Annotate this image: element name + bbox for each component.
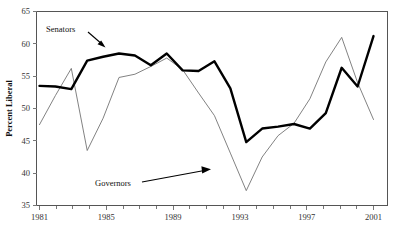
annotation-arrowhead-governors [201, 166, 211, 173]
x-tick-label-1993: 1993 [231, 212, 248, 222]
x-tick-label-1981: 1981 [31, 212, 48, 222]
annotation-governors: Governors [95, 166, 211, 188]
y-tick-label-50: 50 [22, 103, 31, 113]
y-tick-label-55: 55 [22, 71, 31, 81]
y-axis-ticks: 65 60 55 50 45 40 35 [22, 6, 37, 210]
x-tick-label-1997: 1997 [298, 212, 315, 222]
line-chart-canvas: 65 60 55 50 45 40 35 Percent Liberal [0, 0, 409, 234]
annotation-label-senators: Senators [46, 24, 75, 34]
x-tick-label-1985: 1985 [98, 212, 115, 222]
y-tick-label-35: 35 [22, 200, 31, 210]
annotation-arrow-governors [142, 170, 207, 182]
chart-figure: 65 60 55 50 45 40 35 Percent Liberal [0, 0, 409, 234]
y-tick-label-65: 65 [22, 6, 31, 16]
y-axis-title: Percent Liberal [4, 80, 14, 137]
series-line-senators [40, 36, 374, 142]
plot-frame [37, 12, 388, 206]
annotation-label-governors: Governors [95, 178, 131, 188]
x-tick-label-2001: 2001 [365, 212, 382, 222]
y-tick-label-40: 40 [22, 168, 31, 178]
x-axis-ticks [40, 206, 374, 211]
y-tick-label-60: 60 [22, 39, 31, 49]
y-tick-label-45: 45 [22, 136, 31, 146]
annotation-senators: Senators [46, 24, 106, 48]
x-axis-labels: 1981 1985 1989 1993 1997 2001 [31, 212, 382, 222]
x-tick-label-1989: 1989 [165, 212, 182, 222]
